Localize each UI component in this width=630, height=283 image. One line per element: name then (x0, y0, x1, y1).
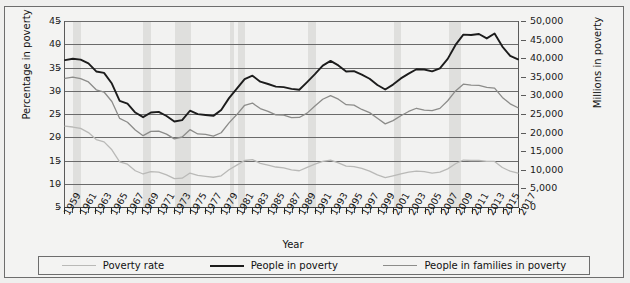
y-axis-right-tick-label: 25,000 (530, 109, 563, 119)
y-axis-left-tick (56, 44, 61, 45)
series-line (65, 33, 518, 121)
y-axis-right-tick (521, 40, 526, 41)
y-axis-right-tick (521, 58, 526, 59)
y-axis-right-tick-label: 35,000 (530, 72, 563, 82)
y-axis-left-tick (56, 68, 61, 69)
y-axis-right: 05,00010,00015,00020,00025,00030,00035,0… (521, 21, 591, 207)
y-axis-right-title: Millions in poverty (592, 0, 603, 138)
y-axis-right-tick (521, 95, 526, 96)
legend-label: Poverty rate (103, 260, 164, 271)
legend-label: People in poverty (251, 260, 338, 271)
y-axis-left-tick (56, 137, 61, 138)
legend-label: People in families in poverty (424, 260, 566, 271)
y-axis-left-tick (56, 21, 61, 22)
y-axis-right-tick (521, 21, 526, 22)
y-axis-right-tick (521, 170, 526, 171)
y-axis-left-tick (56, 161, 61, 162)
y-axis-right-tick-label: 45,000 (530, 35, 563, 45)
y-axis-right-tick (521, 188, 526, 189)
chart-figure: 51015202530354045 Percentage in poverty … (4, 6, 624, 278)
y-axis-right-tick-label: 5,000 (530, 183, 557, 193)
y-axis-left-title: Percentage in poverty (21, 0, 32, 140)
y-axis-left-tick-label: 15 (17, 156, 61, 166)
plot-area (64, 21, 519, 207)
y-axis-right-tick (521, 133, 526, 134)
y-axis-right-tick-label: 40,000 (530, 53, 563, 63)
y-axis-right-tick (521, 114, 526, 115)
y-axis-right-tick (521, 151, 526, 152)
y-axis-left-tick (56, 207, 61, 208)
y-axis-left-tick (56, 114, 61, 115)
series-lines (65, 21, 518, 207)
series-line (65, 77, 518, 139)
y-axis-right-tick-label: 30,000 (530, 90, 563, 100)
legend-item[interactable]: People in families in poverty (383, 260, 566, 271)
y-axis-right-tick (521, 77, 526, 78)
legend-item[interactable]: Poverty rate (62, 260, 164, 271)
legend-item[interactable]: People in poverty (210, 260, 338, 271)
chart-legend: Poverty ratePeople in povertyPeople in f… (38, 256, 590, 275)
y-axis-right-tick-label: 20,000 (530, 128, 563, 138)
y-axis-left: 51015202530354045 (5, 21, 61, 207)
legend-line-swatch (383, 265, 417, 266)
x-axis-title: Year (5, 239, 581, 250)
y-axis-left-tick-label: 10 (17, 179, 61, 189)
series-line (65, 126, 518, 179)
y-axis-left-tick (56, 91, 61, 92)
y-axis-right-tick-label: 15,000 (530, 146, 563, 156)
legend-line-swatch (62, 265, 96, 266)
legend-line-swatch (210, 265, 244, 267)
y-axis-left-tick (56, 184, 61, 185)
y-axis-right-tick-label: 50,000 (530, 16, 563, 26)
y-axis-right-tick-label: 10,000 (530, 165, 563, 175)
